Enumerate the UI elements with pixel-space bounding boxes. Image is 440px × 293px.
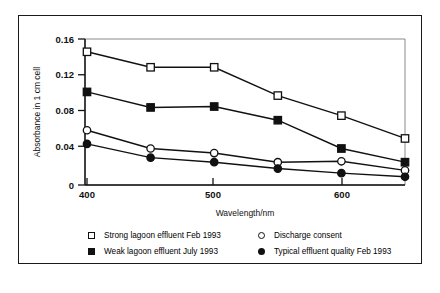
data-series-layer — [83, 48, 408, 180]
data-point — [274, 117, 281, 124]
y-tick-label-0.16: 0.16 — [56, 34, 75, 45]
series-0 — [83, 48, 408, 142]
chart-screenshot: 0.16 0.12 0.08 0.04 0 Absorbance in 1 cm… — [0, 0, 440, 293]
data-point — [338, 145, 345, 152]
legend-row-2: Weak lagoon effluent July 1993 Typical e… — [88, 247, 408, 256]
data-point — [147, 64, 154, 71]
y-tick-label-0.08: 0.08 — [56, 105, 75, 116]
x-axis-title: Wavelength/nm — [216, 208, 275, 218]
series-line — [87, 92, 405, 162]
data-point — [401, 158, 408, 165]
legend-label-weak-lagoon: Weak lagoon effluent July 1993 — [104, 247, 218, 256]
data-point — [211, 158, 218, 165]
x-axis-ticks — [87, 178, 342, 185]
y-axis-ticks — [78, 39, 85, 185]
legend-item-strong-lagoon: Strong lagoon effluent Feb 1993 — [88, 231, 258, 240]
filled-circle-icon — [258, 248, 265, 255]
data-point — [401, 173, 408, 180]
legend-item-weak-lagoon: Weak lagoon effluent July 1993 — [88, 247, 258, 256]
series-2 — [83, 127, 408, 175]
data-point — [274, 165, 281, 172]
filled-square-icon — [88, 248, 95, 255]
data-point — [83, 88, 90, 95]
legend-item-discharge-consent: Discharge consent — [258, 231, 342, 240]
data-point — [147, 104, 154, 111]
data-point — [147, 145, 154, 152]
data-point — [338, 158, 345, 165]
series-line — [87, 144, 405, 177]
series-line — [87, 52, 405, 139]
x-axis: 400 500 600 Wavelength/nm — [79, 178, 405, 218]
data-point — [147, 154, 154, 161]
x-tick-label-600: 600 — [334, 189, 350, 200]
data-point — [338, 112, 345, 119]
data-point — [211, 103, 218, 110]
data-point — [211, 64, 218, 71]
data-point — [274, 92, 281, 99]
chart-legend: Strong lagoon effluent Feb 1993 Discharg… — [88, 231, 408, 256]
legend-label-discharge-consent: Discharge consent — [274, 231, 342, 240]
legend-label-typical-effluent: Typical effluent quality Feb 1993 — [274, 247, 391, 256]
open-circle-icon — [258, 232, 265, 239]
open-square-icon — [88, 232, 95, 239]
y-tick-label-0.12: 0.12 — [56, 69, 75, 80]
y-axis: 0.16 0.12 0.08 0.04 0 Absorbance in 1 cm… — [32, 34, 85, 191]
series-3 — [83, 140, 408, 180]
data-point — [401, 135, 408, 142]
y-tick-label-0.04: 0.04 — [56, 141, 75, 152]
x-tick-label-400: 400 — [79, 189, 95, 200]
legend-item-typical-effluent: Typical effluent quality Feb 1993 — [258, 247, 391, 256]
y-axis-title: Absorbance in 1 cm cell — [32, 67, 42, 157]
data-point — [83, 140, 90, 147]
legend-row-1: Strong lagoon effluent Feb 1993 Discharg… — [88, 231, 408, 240]
data-point — [83, 127, 90, 134]
legend-label-strong-lagoon: Strong lagoon effluent Feb 1993 — [104, 231, 221, 240]
x-tick-label-500: 500 — [205, 189, 221, 200]
data-point — [83, 48, 90, 55]
data-point — [338, 169, 345, 176]
y-tick-label-0: 0 — [69, 180, 74, 191]
series-line — [87, 130, 405, 170]
data-point — [211, 149, 218, 156]
